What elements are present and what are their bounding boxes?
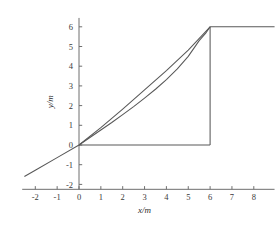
x-tick-label-8: 6 <box>208 192 212 202</box>
x-tick-label-1: -1 <box>54 192 61 202</box>
x-tick-label-0: -2 <box>32 192 39 202</box>
axes <box>22 18 274 189</box>
x-tick-label-2: 0 <box>77 192 81 202</box>
chart-figure: -2-1012345678-2-10123456 x/my/m <box>0 0 276 230</box>
x-tick-label-4: 2 <box>121 192 125 202</box>
series-concave-up-curve <box>79 27 210 145</box>
x-tick-label-5: 3 <box>142 192 146 202</box>
y-tick-label-6: 4 <box>69 61 74 71</box>
x-tick-label-6: 4 <box>164 192 169 202</box>
y-tick-label-2: 0 <box>69 140 73 150</box>
y-tick-label-3: 1 <box>69 120 73 130</box>
y-tick-label-0: -2 <box>66 180 73 190</box>
y-tick-label-8: 6 <box>69 22 73 32</box>
tick-labels: -2-1012345678-2-10123456 <box>32 22 256 202</box>
y-tick-label-5: 3 <box>69 81 73 91</box>
x-axis-title: x/m <box>137 205 151 215</box>
x-tick-label-3: 1 <box>99 192 103 202</box>
y-tick-label-7: 5 <box>69 42 73 52</box>
data-curves <box>24 27 274 177</box>
x-tick-label-10: 8 <box>252 192 256 202</box>
y-axis-title: y/m <box>45 95 55 109</box>
x-tick-label-7: 5 <box>186 192 190 202</box>
y-tick-label-4: 2 <box>69 101 73 111</box>
x-tick-label-9: 7 <box>230 192 234 202</box>
y-tick-label-1: -1 <box>66 160 73 170</box>
plot-area: -2-1012345678-2-10123456 x/my/m <box>0 0 276 230</box>
